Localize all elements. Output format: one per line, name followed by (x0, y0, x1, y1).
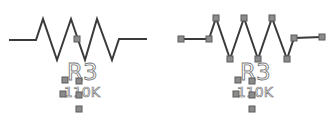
origin-handle[interactable] (74, 36, 80, 42)
vertex-handle[interactable] (241, 15, 247, 21)
resistor-left[interactable]: R3 110K (9, 19, 147, 112)
value-handle-a[interactable] (233, 91, 239, 97)
schematic-canvas[interactable]: R3 110K R3 110K (0, 0, 332, 119)
vertex-handle[interactable] (227, 56, 233, 62)
vertex-handle[interactable] (206, 36, 212, 42)
vertex-handle[interactable] (284, 56, 290, 62)
refdes-handle-b[interactable] (76, 78, 82, 84)
value-handle-c[interactable] (249, 106, 255, 112)
value-handle-c[interactable] (76, 106, 82, 112)
value-handle-b[interactable] (76, 92, 82, 98)
value-handle-b[interactable] (249, 92, 255, 98)
refdes-handle-a[interactable] (235, 77, 241, 83)
resistor-right[interactable]: R3 110K (178, 15, 325, 112)
vertex-handle[interactable] (178, 36, 184, 42)
resistor-right-body[interactable] (181, 18, 322, 59)
vertex-handle[interactable] (269, 15, 275, 21)
vertex-handle[interactable] (291, 35, 297, 41)
value-handle-a[interactable] (60, 91, 66, 97)
refdes-handle-b[interactable] (249, 78, 255, 84)
refdes-handle-a[interactable] (62, 77, 68, 83)
vertex-handle[interactable] (213, 15, 219, 21)
vertex-handle[interactable] (319, 34, 325, 40)
